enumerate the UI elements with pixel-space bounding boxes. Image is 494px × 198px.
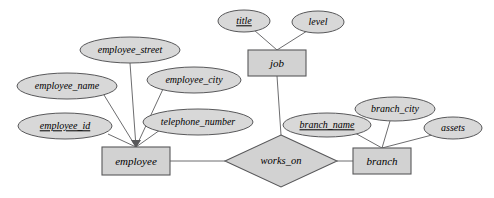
attribute-employee-street[interactable]: employee_street bbox=[80, 37, 180, 63]
attribute-label-telephone-number: telephone_number bbox=[161, 116, 236, 127]
relationship-works-on[interactable]: works_on bbox=[225, 135, 337, 187]
er-diagram-svg: job title level employee_street employee… bbox=[0, 0, 494, 198]
entity-employee[interactable]: employee bbox=[102, 147, 170, 175]
attribute-assets[interactable]: assets bbox=[424, 117, 482, 139]
attribute-label-title: title bbox=[236, 15, 252, 26]
attribute-label-branch-city: branch_city bbox=[371, 103, 419, 114]
relationship-label-works-on: works_on bbox=[261, 155, 302, 166]
connector-employee-street bbox=[130, 63, 136, 147]
attribute-branch-name[interactable]: branch_name bbox=[283, 113, 371, 137]
attribute-label-assets: assets bbox=[441, 122, 465, 133]
er-diagram-canvas: job title level employee_street employee… bbox=[0, 0, 494, 198]
connector-branch-name bbox=[355, 133, 382, 148]
entity-branch[interactable]: branch bbox=[353, 148, 411, 174]
attribute-label-employee-city: employee_city bbox=[165, 74, 223, 85]
entity-job[interactable]: job bbox=[248, 50, 306, 76]
attribute-branch-city[interactable]: branch_city bbox=[355, 97, 435, 121]
attribute-label-employee-street: employee_street bbox=[98, 44, 163, 55]
entity-label-employee: employee bbox=[115, 155, 157, 167]
connector-level bbox=[277, 31, 307, 50]
attribute-level[interactable]: level bbox=[292, 11, 344, 33]
attribute-label-level: level bbox=[309, 16, 328, 27]
attribute-title[interactable]: title bbox=[218, 10, 270, 32]
attribute-label-employee-id: employee_id bbox=[40, 120, 92, 131]
connector-job-works-on bbox=[277, 76, 281, 135]
connector-title bbox=[254, 30, 277, 50]
attribute-label-employee-name: employee_name bbox=[35, 80, 100, 91]
entity-label-job: job bbox=[268, 57, 285, 69]
attribute-employee-id[interactable]: employee_id bbox=[18, 113, 112, 139]
entity-label-branch: branch bbox=[366, 155, 398, 167]
connector-assets bbox=[382, 135, 432, 148]
attribute-employee-city[interactable]: employee_city bbox=[147, 67, 241, 93]
attribute-telephone-number[interactable]: telephone_number bbox=[143, 109, 253, 135]
attribute-label-branch-name: branch_name bbox=[300, 119, 356, 130]
attribute-employee-name[interactable]: employee_name bbox=[17, 73, 117, 99]
connector-branch-city bbox=[382, 121, 390, 148]
